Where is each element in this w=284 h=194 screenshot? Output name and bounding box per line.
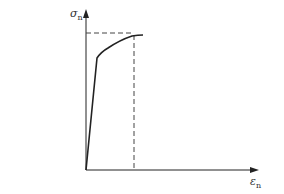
x-axis-label: εn [250,176,261,190]
y-axis-arrow-icon [83,9,89,18]
y-axis-subscript: n [78,13,83,22]
stress-strain-diagram [0,0,284,194]
y-axis-symbol: σ [70,7,78,20]
x-axis-subscript: n [256,181,261,190]
y-axis-label: σn [70,8,83,22]
x-axis-arrow-icon [250,167,259,173]
